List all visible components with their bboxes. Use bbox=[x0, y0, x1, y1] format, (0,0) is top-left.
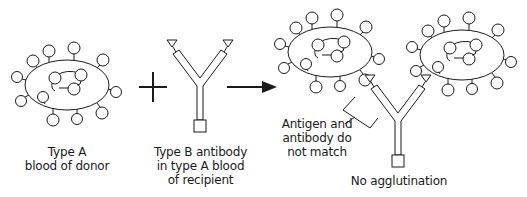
donor-red-cell bbox=[12, 42, 122, 126]
mismatch-callout-label: Antigen and antibody do not match bbox=[276, 117, 358, 159]
result-red-cell-right bbox=[407, 12, 517, 96]
no-agglutination-label: No agglutination bbox=[344, 174, 454, 188]
reaction-arrow bbox=[227, 81, 277, 93]
result-antibody bbox=[365, 75, 431, 167]
donor-blood-label: Type A blood of donor bbox=[12, 145, 122, 173]
recipient-antibody-b bbox=[167, 40, 233, 132]
recipient-antibody-label: Type B antibody in type A blood of recip… bbox=[143, 145, 258, 187]
plus-sign bbox=[139, 72, 167, 102]
result-red-cell-left bbox=[275, 9, 385, 93]
